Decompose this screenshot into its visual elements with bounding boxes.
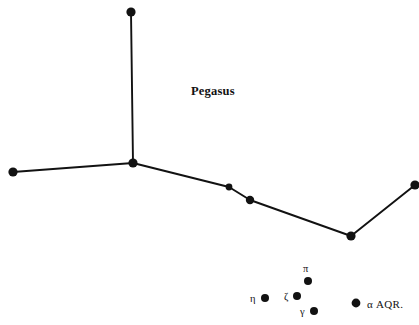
star-name-label: α AQR. xyxy=(367,299,403,310)
constellation-line xyxy=(133,163,229,187)
star-marker xyxy=(304,277,312,285)
star-marker xyxy=(293,292,301,300)
star-marker xyxy=(346,231,355,240)
star-name-label: γ xyxy=(300,307,305,318)
star-marker xyxy=(261,294,269,302)
star-name-label: ζ xyxy=(284,292,288,303)
constellation-line xyxy=(351,185,415,236)
star-name-label: η xyxy=(250,294,256,305)
constellation-line-layer xyxy=(13,12,415,236)
constellation-line xyxy=(13,163,133,172)
star-marker xyxy=(310,307,318,315)
constellation-svg xyxy=(0,0,419,325)
star-marker xyxy=(226,184,233,191)
constellation-name-label: Pegasus xyxy=(191,85,235,98)
star-marker xyxy=(246,196,254,204)
constellation-line xyxy=(250,200,351,236)
star-name-label: π xyxy=(303,264,308,275)
star-marker xyxy=(126,7,135,16)
star-chart-canvas: Pegasusπζηγα AQR. xyxy=(0,0,419,325)
star-layer xyxy=(8,7,419,315)
star-marker xyxy=(352,299,361,308)
star-marker xyxy=(8,167,17,176)
star-marker xyxy=(128,158,137,167)
constellation-line xyxy=(131,12,133,163)
